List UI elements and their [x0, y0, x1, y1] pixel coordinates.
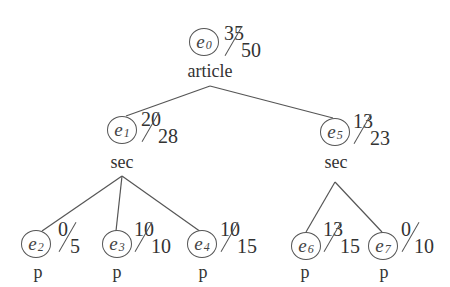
- node-label-e1: sec: [111, 152, 134, 173]
- node-circle-e6: e6: [291, 232, 321, 260]
- fraction-denominator: 15: [237, 235, 257, 258]
- fraction-denominator: 10: [151, 235, 171, 258]
- fraction-denominator: 23: [370, 127, 390, 150]
- node-subscript: 4: [204, 240, 210, 255]
- node-label-e0: article: [188, 61, 233, 82]
- node-symbol: e: [196, 31, 204, 53]
- node-subscript: 2: [38, 240, 44, 255]
- node-label-e7: p: [380, 262, 389, 283]
- node-subscript: 6: [308, 242, 314, 257]
- node-circle-e3: e3: [102, 230, 132, 258]
- node-circle-e7: e7: [368, 232, 398, 260]
- node-symbol: e: [327, 121, 335, 143]
- node-circle-e4: e4: [187, 230, 217, 258]
- node-symbol: e: [194, 233, 202, 255]
- node-symbol: e: [298, 235, 306, 257]
- node-subscript: 7: [385, 242, 391, 257]
- node-symbol: e: [109, 233, 117, 255]
- node-circle-e2: e2: [21, 230, 51, 258]
- node-symbol: e: [375, 235, 383, 257]
- edge-e0-e1: [126, 86, 210, 116]
- node-subscript: 1: [124, 126, 130, 141]
- node-label-e5: sec: [325, 152, 348, 173]
- node-subscript: 3: [119, 240, 125, 255]
- node-symbol: e: [114, 119, 122, 141]
- node-subscript: 0: [206, 38, 212, 53]
- node-subscript: 5: [337, 128, 343, 143]
- edge-e1-e3: [116, 176, 122, 231]
- node-label-e3: p: [113, 262, 122, 283]
- fraction-denominator: 15: [340, 235, 360, 258]
- node-circle-e5: e5: [320, 118, 350, 146]
- edge-e0-e5: [210, 86, 333, 118]
- fraction-denominator: 50: [241, 39, 261, 62]
- node-label-e4: p: [199, 262, 208, 283]
- node-label-e6: p: [301, 262, 310, 283]
- node-circle-e1: e1: [107, 116, 137, 144]
- fraction-denominator: 10: [414, 235, 434, 258]
- edge-e1-e2: [42, 176, 122, 231]
- node-label-e2: p: [34, 262, 43, 283]
- fraction-denominator: 5: [70, 235, 80, 258]
- fraction-denominator: 28: [158, 125, 178, 148]
- node-circle-e0: e0: [189, 28, 219, 56]
- node-symbol: e: [28, 233, 36, 255]
